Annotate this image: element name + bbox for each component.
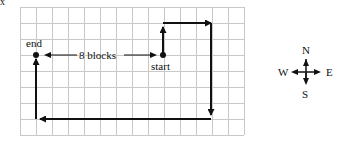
distance-indicator: 8 blocks <box>44 49 157 61</box>
end-label: end <box>26 37 42 49</box>
end-point <box>33 52 39 58</box>
distance-label: 8 blocks <box>79 49 116 61</box>
arrow-right-icon <box>150 52 157 58</box>
compass-south-label: S <box>302 88 308 100</box>
compass-north-label: N <box>302 44 310 56</box>
compass-east-label: E <box>326 66 333 78</box>
arrow-left-icon <box>44 52 51 58</box>
start-point <box>160 52 166 58</box>
compass-rose-icon: N S W E <box>278 44 333 100</box>
compass-west-label: W <box>278 66 289 78</box>
route-diagram: 8 blocks end start N S W E <box>0 0 349 145</box>
start-label: start <box>151 60 170 72</box>
